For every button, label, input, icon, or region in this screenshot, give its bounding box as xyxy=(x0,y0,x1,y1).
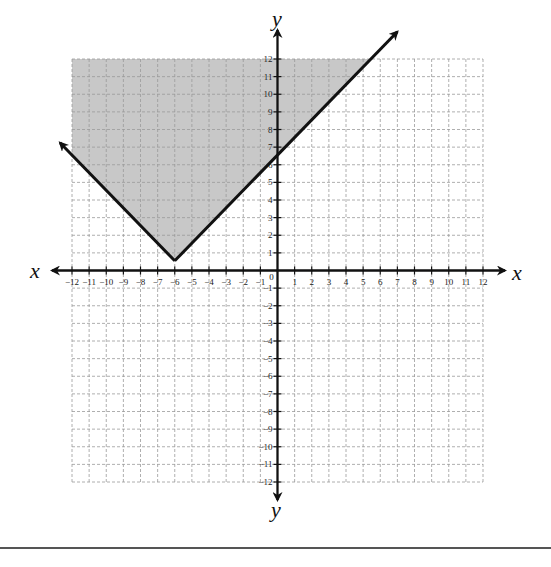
y-tick-label: 4 xyxy=(268,195,273,205)
y-tick-label: 10 xyxy=(264,89,274,99)
x-tick-label: 1 xyxy=(292,277,297,287)
x-tick-label: 2 xyxy=(310,277,315,287)
x-axis-label-right: x xyxy=(511,260,522,285)
y-tick-label: −12 xyxy=(258,477,272,487)
y-axis-label-bottom: y xyxy=(269,497,281,522)
y-tick-label: 9 xyxy=(268,107,273,117)
x-tick-label: 10 xyxy=(444,277,454,287)
y-tick-label: −4 xyxy=(263,336,273,346)
x-tick-label: 9 xyxy=(429,277,434,287)
x-tick-label: 4 xyxy=(344,277,349,287)
y-axis-label-top: y xyxy=(270,6,282,31)
y-tick-label: −3 xyxy=(263,318,273,328)
x-axis-label-left: x xyxy=(29,258,40,283)
y-tick-label: 12 xyxy=(264,54,273,64)
y-tick-label: −8 xyxy=(263,407,273,417)
x-tick-label: 7 xyxy=(395,277,400,287)
y-tick-label: 1 xyxy=(268,248,273,258)
y-tick-label: 7 xyxy=(268,142,273,152)
x-tick-label: −11 xyxy=(82,277,96,287)
y-tick-label: −10 xyxy=(258,442,273,452)
y-tick-label: 2 xyxy=(268,230,273,240)
y-tick-label: −11 xyxy=(259,459,273,469)
x-tick-label: −9 xyxy=(119,277,129,287)
x-tick-label: −7 xyxy=(153,277,163,287)
x-tick-label: 0 xyxy=(269,272,274,282)
y-tick-label: −5 xyxy=(263,354,273,364)
x-tick-label: −8 xyxy=(136,277,146,287)
x-tick-label: 5 xyxy=(361,277,366,287)
y-tick-label: 11 xyxy=(264,72,273,82)
x-tick-label: −10 xyxy=(99,277,114,287)
x-tick-label: 6 xyxy=(378,277,383,287)
x-tick-label: −3 xyxy=(221,277,231,287)
y-tick-label: 3 xyxy=(268,213,273,223)
x-tick-label: −5 xyxy=(187,277,197,287)
y-tick-label: −6 xyxy=(263,371,273,381)
y-tick-label: 5 xyxy=(268,177,273,187)
x-tick-label: −6 xyxy=(170,277,180,287)
coordinate-plane: −12−11−10−9−8−7−6−5−4−3−2−10123456789101… xyxy=(0,0,551,567)
y-tick-label: −9 xyxy=(263,424,273,434)
y-tick-label: −7 xyxy=(263,389,273,399)
x-tick-label: −2 xyxy=(238,277,248,287)
x-tick-label: 3 xyxy=(327,277,332,287)
x-tick-label: −12 xyxy=(65,277,79,287)
x-tick-label: 8 xyxy=(412,277,417,287)
y-tick-label: 8 xyxy=(268,125,273,135)
x-tick-label: 12 xyxy=(479,277,488,287)
x-tick-label: −4 xyxy=(204,277,214,287)
x-tick-label: 11 xyxy=(462,277,471,287)
horizontal-divider xyxy=(0,547,551,549)
y-tick-label: −2 xyxy=(263,301,273,311)
y-tick-label: −1 xyxy=(263,283,273,293)
